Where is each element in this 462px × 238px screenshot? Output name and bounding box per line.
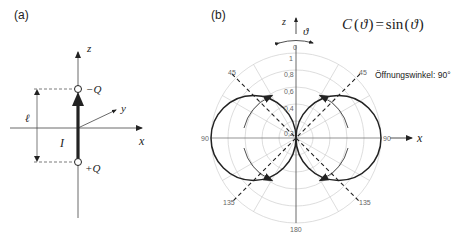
tick-45-right: 45 <box>359 69 367 76</box>
tick-90-left: 90 <box>201 135 209 142</box>
tick-r-02: 0,2 <box>284 130 294 137</box>
panel-a-label: (a) <box>14 8 29 22</box>
tick-r-04: 0,4 <box>284 105 294 112</box>
tick-r-1: 1 <box>289 55 293 62</box>
formula: C(ϑ)=sin(ϑ) <box>342 16 424 33</box>
theta-arc-icon <box>279 41 313 44</box>
y-axis-label: y <box>120 102 126 114</box>
charge-bottom-icon <box>75 159 82 166</box>
tick-135-left: 135 <box>223 199 235 206</box>
current-arrowhead <box>72 92 84 106</box>
charge-top-icon <box>75 86 82 93</box>
charge-bottom-label: +Q <box>85 162 100 174</box>
panel-a: (a) z x y −Q +Q ℓ I <box>10 8 145 218</box>
x-label: x <box>416 131 423 145</box>
tick-r-08: 0,8 <box>284 71 294 78</box>
theta-label: ϑ <box>303 25 309 37</box>
x-axis-label: x <box>138 134 145 148</box>
tick-90-right: 90 <box>383 135 391 142</box>
tick-180: 180 <box>290 226 302 233</box>
opening-angle-label: Öffnungswinkel: 90° <box>375 70 451 80</box>
panel-b: (b) z ϑ C(ϑ)=sin(ϑ) <box>201 8 451 233</box>
length-label: ℓ <box>25 112 30 124</box>
z-axis-label: z <box>86 42 92 54</box>
dipole-figure: (a) z x y −Q +Q ℓ I (b) z ϑ <box>0 0 462 238</box>
tick-45-left: 45 <box>228 69 236 76</box>
tick-135-right: 135 <box>359 199 371 206</box>
charge-top-label: −Q <box>86 83 101 95</box>
panel-b-label: (b) <box>211 8 226 22</box>
z-label: z <box>281 16 286 27</box>
y-axis <box>78 110 116 128</box>
tick-0: 0 <box>293 44 297 51</box>
tick-r-06: 0,6 <box>284 88 294 95</box>
current-label: I <box>59 136 65 150</box>
